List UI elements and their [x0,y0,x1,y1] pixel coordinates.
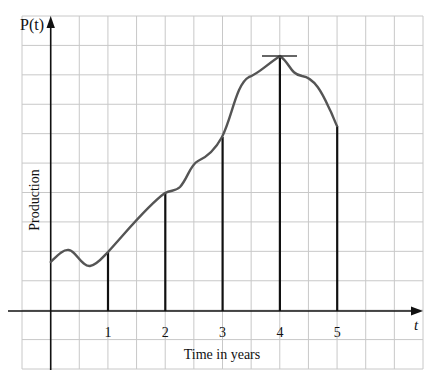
x-tick-1: 1 [105,325,112,340]
x-axis-title: Time in years [184,347,260,362]
y-axis-title: Production [27,169,42,230]
x-tick-3: 3 [219,325,226,340]
x-tick-5: 5 [334,325,341,340]
y-axis-arrow-icon [47,16,55,28]
x-tick-2: 2 [162,325,169,340]
x-axis-variable-label: t [414,317,419,333]
y-axis-label: P(t) [20,16,44,34]
production-chart: P(t) t Production Time in years 1 2 3 4 … [0,0,445,383]
x-tick-4: 4 [276,325,283,340]
x-axis-arrow-icon [411,307,423,316]
